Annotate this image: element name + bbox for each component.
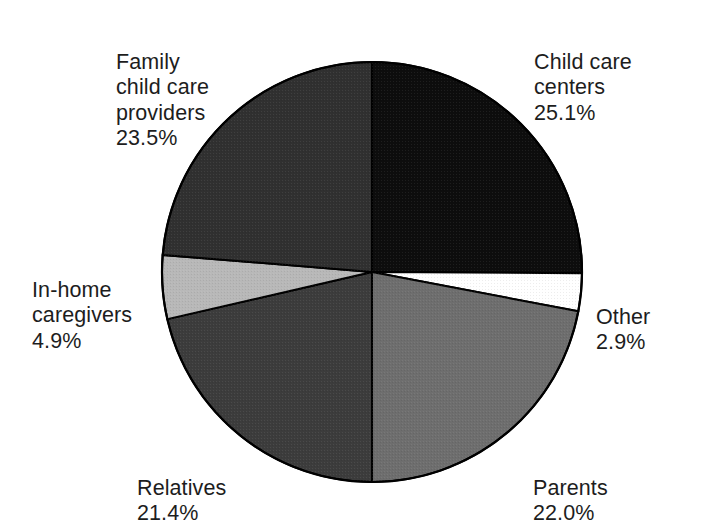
slice-label-child-care-centers-value: 25.1% (534, 101, 704, 127)
slice-label-other-text: Other (596, 305, 650, 329)
slice-label-in-home-caregivers-value: 4.9% (32, 329, 207, 355)
slice-label-family-child-care-providers-value: 23.5% (116, 126, 306, 152)
slice-label-child-care-centers: Child care centers 25.1% (534, 24, 704, 152)
slice-label-other-value: 2.9% (596, 330, 706, 356)
slice-label-other: Other 2.9% (596, 279, 706, 381)
slice-label-parents: Parents 22.0% (533, 450, 703, 526)
slice-label-in-home-caregivers-text: In-home caregivers (32, 278, 132, 328)
slice-label-family-child-care-providers-text: Family child care providers (116, 50, 209, 125)
slice-label-parents-value: 22.0% (533, 501, 703, 526)
slice-label-relatives-value: 21.4% (137, 501, 327, 526)
slice-label-in-home-caregivers: In-home caregivers 4.9% (32, 252, 207, 380)
slice-label-relatives: Relatives 21.4% (137, 450, 327, 526)
pie-chart: Family child care providers 23.5% Child … (0, 0, 706, 526)
slice-label-relatives-text: Relatives (137, 476, 226, 500)
slice-label-family-child-care-providers: Family child care providers 23.5% (116, 24, 306, 177)
slice-label-parents-text: Parents (533, 476, 608, 500)
slice-label-child-care-centers-text: Child care centers (534, 50, 632, 100)
